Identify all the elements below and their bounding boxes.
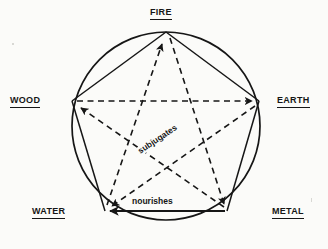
subjugates-edges [77,38,255,207]
node-label-metal: METAL [272,207,304,219]
arrow-metal-wood [81,108,224,207]
arrow-fire-metal [170,38,224,204]
node-label-water: WATER [32,207,65,219]
scan-speck [12,43,14,45]
scan-speck [311,198,312,202]
arrow-water-fire [107,44,162,205]
diagram-canvas: FIRE EARTH METAL WATER WOOD subjugates n… [0,0,328,249]
node-label-fire: FIRE [150,8,172,20]
edge-wood-fire [72,32,166,101]
node-label-earth: EARTH [277,96,310,108]
relation-label-nourishes: nourishes [131,197,174,206]
edge-fire-earth [166,32,259,101]
node-label-wood: WOOD [10,96,40,108]
